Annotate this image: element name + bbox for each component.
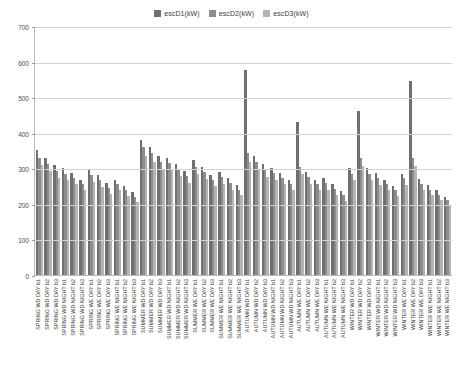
x-axis-tick-label: SUMMER WD NIGHT b1 [166, 279, 172, 339]
x-axis-tick: SPRING WE NIGHT b3 [130, 277, 139, 373]
bar-group [235, 27, 244, 275]
bar-escd3kw [284, 184, 286, 275]
bar-escd3kw [292, 190, 294, 275]
x-axis-tick-label: WINTER WE NIGHT b1 [427, 279, 433, 336]
bar-escd3kw [136, 202, 138, 275]
bar-escd3kw [232, 190, 234, 275]
x-axis-tick-label: AUTUMN WE NIGHT b3 [340, 279, 346, 338]
bar-group [244, 27, 253, 275]
x-axis-tick: SUMMER WE DAY b2 [199, 277, 208, 373]
bar-group [426, 27, 435, 275]
x-axis-tick: SUMMER WD DAY b2 [147, 277, 156, 373]
bar-escd3kw [240, 195, 242, 275]
y-axis-tick-mark [32, 98, 35, 99]
bar-group [287, 27, 296, 275]
y-axis-tick-label: 300 [18, 166, 29, 173]
bar-escd3kw [153, 162, 155, 275]
bar-group [157, 27, 166, 275]
x-axis-tick: AUTUMN WE DAY b1 [295, 277, 304, 373]
x-axis-tick: SUMMER WD NIGHT b3 [182, 277, 191, 373]
bar-group [96, 27, 105, 275]
bar-group [139, 27, 148, 275]
x-axis-tick-label: SUMMER WE DAY b3 [209, 279, 215, 333]
x-axis-tick: AUTUMN WE NIGHT b2 [330, 277, 339, 373]
bar-escd3kw [362, 166, 364, 275]
x-axis-tick-label: AUTUMN WE DAY b2 [305, 279, 311, 332]
x-axis-tick: WINTER WE NIGHT b2 [434, 277, 443, 373]
bar-group [148, 27, 157, 275]
x-axis-tick: SPRING WE DAY b2 [95, 277, 104, 373]
bar-group [183, 27, 192, 275]
x-axis-tick-label: SUMMER WD DAY b2 [148, 279, 154, 333]
legend-item-escd1: escD1(kW) [154, 10, 200, 17]
x-axis-tick-label: AUTUMN WD DAY b3 [262, 279, 268, 332]
bar-escd3kw [49, 171, 51, 275]
legend-swatch-escd3 [263, 10, 270, 17]
bar-group [226, 27, 235, 275]
x-axis-tick: SPRING WE NIGHT b2 [121, 277, 130, 373]
bar-group [105, 27, 114, 275]
x-axis-tick-label: SPRING WE DAY b3 [105, 279, 111, 329]
x-axis-tick-label: SPRING WE DAY b2 [96, 279, 102, 329]
y-axis-tick-label: 200 [18, 201, 29, 208]
x-axis-tick: SPRING WD DAY b1 [34, 277, 43, 373]
x-axis-tick: SUMMER WE NIGHT b2 [225, 277, 234, 373]
x-axis-tick-label: SPRING WE NIGHT b1 [114, 279, 120, 336]
chart-root: escD1(kW) escD2(kW) escD3(kW) 0100200300… [0, 0, 463, 373]
x-axis-tick: WINTER WD DAY b2 [356, 277, 365, 373]
y-axis: 0100200300400500600700 [0, 27, 33, 287]
x-axis-tick-label: WINTER WD DAY b3 [366, 279, 372, 330]
legend-swatch-escd1 [154, 10, 161, 17]
x-axis-tick-label: SUMMER WE NIGHT b3 [236, 279, 242, 339]
x-axis-tick-label: AUTUMN WD DAY b2 [253, 279, 259, 332]
bar-group [304, 27, 313, 275]
bar-escd3kw [275, 180, 277, 275]
bar-group [417, 27, 426, 275]
bar-escd3kw [379, 185, 381, 275]
bar-escd3kw [249, 162, 251, 275]
x-axis-tick: AUTUMN WD NIGHT b2 [278, 277, 287, 373]
x-axis-tick-label: SPRING WD NIGHT b3 [79, 279, 85, 336]
bar-group [209, 27, 218, 275]
x-axis-tick: SPRING WD NIGHT b3 [78, 277, 87, 373]
x-axis-tick-label: SUMMER WD NIGHT b2 [175, 279, 181, 339]
bar-group [391, 27, 400, 275]
bar-escd3kw [75, 184, 77, 275]
x-axis-tick: SUMMER WD DAY b3 [156, 277, 165, 373]
x-axis-tick: SUMMER WE DAY b3 [208, 277, 217, 373]
gridline [35, 134, 452, 135]
bar-group [78, 27, 87, 275]
x-axis-tick: WINTER WD DAY b3 [365, 277, 374, 373]
bar-escd3kw [145, 156, 147, 275]
x-axis-tick: AUTUMN WE NIGHT b1 [321, 277, 330, 373]
bar-group [374, 27, 383, 275]
bar-group [174, 27, 183, 275]
bar-group [383, 27, 392, 275]
bar-group [200, 27, 209, 275]
x-axis-tick-label: AUTUMN WD NIGHT b1 [270, 279, 276, 338]
bar-escd3kw [327, 190, 329, 275]
bar-group [348, 27, 357, 275]
x-axis-tick-label: WINTER WD DAY b2 [357, 279, 363, 330]
bar-series-container [35, 27, 452, 275]
legend-swatch-escd2 [209, 10, 216, 17]
x-axis-tick-label: WINTER WD NIGHT b2 [383, 279, 389, 336]
x-axis-tick-label: WINTER WD NIGHT b1 [375, 279, 381, 336]
gridline [35, 27, 452, 28]
legend-item-escd3: escD3(kW) [263, 10, 309, 17]
x-axis-tick: SPRING WD NIGHT b1 [60, 277, 69, 373]
x-axis-tick: AUTUMN WE DAY b3 [313, 277, 322, 373]
gridline [35, 63, 452, 64]
bar-group [61, 27, 70, 275]
bar-escd3kw [101, 187, 103, 275]
x-axis-tick-label: SPRING WD NIGHT b2 [70, 279, 76, 336]
bar-escd3kw [214, 186, 216, 275]
bar-group [113, 27, 122, 275]
y-axis-tick-label: 100 [18, 237, 29, 244]
x-axis-tick: SUMMER WD NIGHT b2 [173, 277, 182, 373]
bar-group [122, 27, 131, 275]
bar-escd3kw [336, 195, 338, 275]
y-axis-tick-mark [32, 205, 35, 206]
x-axis-tick-label: WINTER WD NIGHT b3 [392, 279, 398, 336]
x-axis-labels: SPRING WD DAY b1SPRING WD DAY b2SPRING W… [34, 277, 452, 373]
